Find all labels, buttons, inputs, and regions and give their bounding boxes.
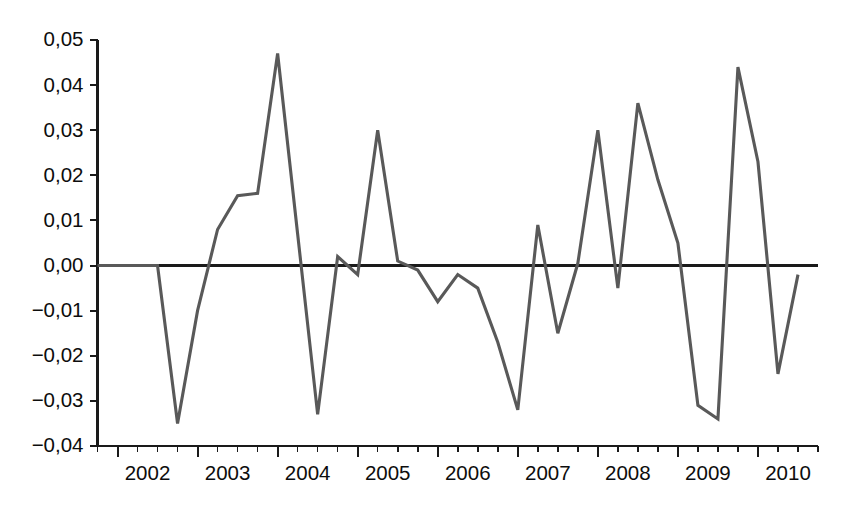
x-tick-label: 2008: [605, 461, 651, 484]
x-tick-label: 2006: [445, 461, 491, 484]
data-series-line: [98, 54, 798, 424]
y-tick-label: 0,00: [44, 253, 84, 276]
x-tick-label: 2003: [205, 461, 251, 484]
y-tick-label: 0,01: [44, 208, 84, 231]
y-tick-labels: 0,050,040,030,020,010,00−0,01−0,02−0,03−…: [32, 27, 84, 456]
y-tick-label: 0,02: [44, 163, 84, 186]
x-tick-marks: [98, 446, 819, 457]
line-chart: 0,050,040,030,020,010,00−0,01−0,02−0,03−…: [0, 0, 844, 509]
chart-container: 0,050,040,030,020,010,00−0,01−0,02−0,03−…: [0, 0, 844, 509]
x-tick-label: 2007: [525, 461, 571, 484]
y-tick-marks: [90, 40, 98, 446]
x-axis-group: 200220032004200520062007200820092010: [98, 446, 819, 484]
x-tick-label: 2002: [125, 461, 171, 484]
y-tick-label: −0,04: [32, 433, 84, 456]
x-tick-label: 2004: [285, 461, 331, 484]
x-tick-label: 2005: [365, 461, 411, 484]
x-tick-label: 2010: [765, 461, 811, 484]
y-tick-label: 0,03: [44, 118, 84, 141]
y-tick-label: −0,01: [32, 298, 84, 321]
x-tick-label: 2009: [685, 461, 731, 484]
y-tick-label: −0,02: [32, 343, 84, 366]
y-axis-group: 0,050,040,030,020,010,00−0,01−0,02−0,03−…: [32, 27, 98, 456]
y-tick-label: −0,03: [32, 388, 84, 411]
y-tick-label: 0,04: [44, 73, 84, 96]
x-tick-labels: 200220032004200520062007200820092010: [125, 461, 811, 484]
y-tick-label: 0,05: [44, 27, 84, 50]
